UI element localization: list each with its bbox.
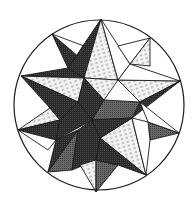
faces [18,19,180,192]
face-b-dark [96,160,118,192]
face-b-light [80,160,96,192]
stellated-polyhedron-figure [0,0,194,203]
